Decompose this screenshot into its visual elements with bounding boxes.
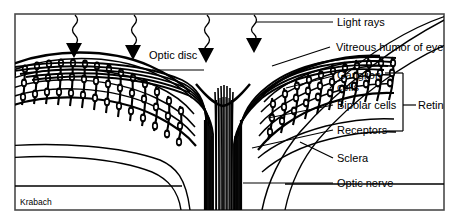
label-receptors: Receptors xyxy=(337,124,388,136)
label-ganglion-cells-line1: Ganglion xyxy=(337,69,381,81)
label-vitreous-humor: Vitreous humor of eye xyxy=(336,41,443,53)
label-retina: Retina xyxy=(418,99,451,111)
label-bipolar-cells: Bipolar cells xyxy=(337,99,397,111)
artist-signature: Krabach xyxy=(20,197,52,207)
label-ganglion-cells-line2: cells xyxy=(337,81,360,93)
retina-diagram: Optic disc Light rays Vitreous humor of … xyxy=(0,0,462,223)
label-optic-nerve: Optic nerve xyxy=(337,177,393,189)
label-optic-disc: Optic disc xyxy=(149,49,198,61)
label-light-rays: Light rays xyxy=(337,16,385,28)
label-sclera: Sclera xyxy=(337,152,369,164)
figure-canvas: Optic disc Light rays Vitreous humor of … xyxy=(0,0,462,223)
